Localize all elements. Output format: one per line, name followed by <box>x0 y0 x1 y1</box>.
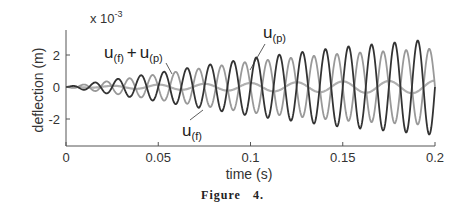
annotation-sum: u(f)+u(p) <box>104 43 172 74</box>
x-tick-label: 0.15 <box>330 150 355 165</box>
y-scale-label: x 10-3 <box>90 9 123 26</box>
x-ticks: 00.050.10.150.2 <box>62 142 444 165</box>
y-ticks: 20-2 <box>48 48 70 127</box>
x-tick-label: 0.1 <box>241 150 259 165</box>
x-axis-label: time (s) <box>226 166 273 182</box>
annotation-up: u(p) <box>250 23 286 70</box>
y-tick-label: -2 <box>48 112 60 127</box>
x-tick-label: 0.05 <box>146 150 171 165</box>
annotation-uf: u(f) <box>182 110 203 142</box>
y-tick-label: 0 <box>53 80 60 95</box>
y-axis-label: deflection (m) <box>30 48 46 133</box>
x-tick-label: 0 <box>62 150 69 165</box>
deflection-chart: 00.050.10.150.2 20-2 x 10-3 time (s) def… <box>0 0 465 209</box>
svg-text:u(f)+u(p): u(f)+u(p) <box>104 43 163 64</box>
svg-text:u(p): u(p) <box>263 23 286 44</box>
figure-caption: Figure 4. <box>0 188 465 203</box>
x-tick-label: 0.2 <box>426 150 444 165</box>
svg-text:u(f): u(f) <box>182 121 202 142</box>
y-tick-label: 2 <box>53 48 60 63</box>
